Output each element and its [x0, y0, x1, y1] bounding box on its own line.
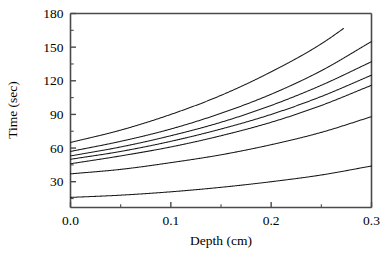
- data-curve: [71, 166, 372, 197]
- y-tick-label: 60: [50, 141, 64, 156]
- data-curve: [71, 75, 372, 159]
- y-tick-label: 30: [50, 174, 64, 189]
- y-tick-label: 120: [43, 73, 64, 88]
- x-tick-label: 0.3: [363, 213, 380, 228]
- data-curve: [71, 62, 372, 156]
- y-axis-title-group: Time (sec): [5, 81, 20, 139]
- axis-ticks-group: [71, 14, 372, 208]
- data-curve: [71, 117, 372, 174]
- x-axis-title-group: Depth (cm): [190, 233, 252, 248]
- y-tick-label: 180: [43, 6, 64, 21]
- data-curves-group: [71, 29, 372, 198]
- x-tick-label-group: 0.00.10.20.3: [62, 213, 380, 228]
- line-chart-plot: Time (sec) Depth (cm) 306090120150180 0.…: [0, 0, 388, 264]
- x-tick-label: 0.1: [162, 213, 179, 228]
- chart-figure: Time (sec) Depth (cm) 306090120150180 0.…: [0, 0, 388, 264]
- x-tick-label: 0.0: [62, 213, 79, 228]
- y-tick-label-group: 306090120150180: [43, 6, 64, 189]
- data-curve: [71, 42, 372, 152]
- x-axis-title: Depth (cm): [190, 233, 252, 248]
- x-tick-label: 0.2: [263, 213, 280, 228]
- data-curve: [71, 29, 344, 143]
- plot-frame: [71, 14, 372, 208]
- y-tick-label: 150: [43, 40, 64, 55]
- y-axis-title: Time (sec): [5, 81, 20, 139]
- y-tick-label: 90: [50, 107, 64, 122]
